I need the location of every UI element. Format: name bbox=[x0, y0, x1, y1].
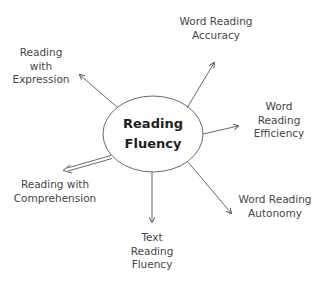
node-line: Autonomy bbox=[239, 207, 312, 221]
node-line: Word bbox=[254, 100, 305, 114]
node-line: Accuracy bbox=[180, 29, 253, 43]
node-text-reading-fluency: Text Reading Fluency bbox=[131, 231, 174, 272]
arrow-to-efficiency bbox=[203, 126, 238, 134]
node-word-reading-efficiency: Word Reading Efficiency bbox=[254, 100, 305, 141]
center-line-2: Fluency bbox=[123, 134, 183, 154]
node-line: Word Reading bbox=[180, 15, 253, 29]
center-line-1: Reading bbox=[123, 114, 183, 134]
center-node-label: Reading Fluency bbox=[123, 114, 183, 154]
node-reading-with-comprehension: Reading with Comprehension bbox=[14, 178, 96, 205]
node-line: Text bbox=[131, 231, 174, 245]
node-line: Reading with bbox=[14, 178, 96, 192]
node-reading-with-expression: Reading with Expression bbox=[13, 46, 70, 87]
node-line: Comprehension bbox=[14, 192, 96, 206]
node-line: Fluency bbox=[131, 258, 174, 272]
node-line: with bbox=[13, 60, 70, 74]
arrow-to-accuracy bbox=[187, 63, 214, 108]
node-line: Word Reading bbox=[239, 193, 312, 207]
node-line: Reading bbox=[254, 114, 305, 128]
double-arrow-to-comprehension bbox=[63, 156, 112, 174]
node-word-reading-accuracy: Word Reading Accuracy bbox=[180, 15, 253, 42]
node-line: Reading bbox=[131, 245, 174, 259]
arrow-to-autonomy bbox=[188, 162, 231, 213]
node-word-reading-autonomy: Word Reading Autonomy bbox=[239, 193, 312, 220]
arrow-to-expression bbox=[80, 75, 117, 107]
node-line: Expression bbox=[13, 73, 70, 87]
node-line: Efficiency bbox=[254, 127, 305, 141]
node-line: Reading bbox=[13, 46, 70, 60]
